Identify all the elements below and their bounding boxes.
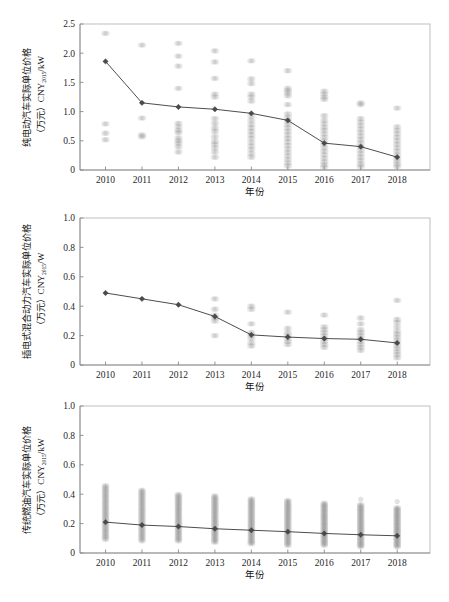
chart-svg-0: 00.51.01.52.02.5201020112012201320142015… xyxy=(0,0,449,200)
x-tick-label: 2017 xyxy=(351,370,370,380)
scatter-point xyxy=(396,105,401,110)
scatter-point xyxy=(287,163,292,168)
scatter-outlier-point xyxy=(358,497,363,502)
x-tick-label: 2018 xyxy=(388,370,407,380)
scatter-point xyxy=(141,115,146,120)
scatter-point xyxy=(214,116,219,121)
y-axis-title-line1: 纯电动汽车实际单位价格 xyxy=(21,48,32,147)
x-tick-label: 2011 xyxy=(133,175,152,185)
x-tick-label: 2016 xyxy=(315,370,334,380)
scatter-point xyxy=(214,76,219,81)
x-tick-label: 2014 xyxy=(242,370,261,380)
y-axis-title-line2: （万元）CNY2015/W xyxy=(36,252,47,330)
y-tick-label: 0 xyxy=(70,165,75,175)
chart-panel-phev: 00.20.40.60.81.0201020112012201320142015… xyxy=(0,196,449,396)
scatter-point xyxy=(177,63,182,68)
chart-svg-1: 00.20.40.60.81.0201020112012201320142015… xyxy=(0,196,449,396)
x-tick-label: 2014 xyxy=(242,175,261,185)
scatter-point xyxy=(323,543,328,548)
y-axis-title-line2: （万元）CNY2015/kW xyxy=(36,438,47,521)
y-tick-label: 1.0 xyxy=(63,401,75,411)
chart-panel-icev: 00.20.40.60.81.0201020112012201320142015… xyxy=(0,392,449,602)
y-tick-label: 0.2 xyxy=(63,331,75,341)
scatter-point xyxy=(360,102,365,107)
x-tick-label: 2015 xyxy=(278,175,297,185)
scatter-point xyxy=(177,86,182,91)
scatter-point xyxy=(287,93,292,98)
series-marker xyxy=(176,104,181,109)
scatter-point xyxy=(177,144,182,149)
y-tick-label: 0.6 xyxy=(63,460,75,470)
x-tick-label: 2012 xyxy=(169,175,188,185)
scatter-point xyxy=(250,321,255,326)
scatter-point xyxy=(360,545,365,550)
y-tick-label: 2.5 xyxy=(63,19,75,29)
scatter-point xyxy=(177,149,182,154)
scatter-point xyxy=(250,155,255,160)
scatter-point xyxy=(214,540,219,545)
y-tick-label: 1.0 xyxy=(63,213,75,223)
scatter-point xyxy=(105,137,110,142)
y-tick-label: 0.4 xyxy=(63,302,75,312)
x-tick-label: 2010 xyxy=(96,370,115,380)
scatter-point xyxy=(214,59,219,64)
scatter-point xyxy=(177,130,182,135)
scatter-point xyxy=(214,48,219,53)
x-tick-label: 2011 xyxy=(133,558,152,568)
scatter-point xyxy=(105,537,110,542)
scatter-point xyxy=(250,58,255,63)
scatter-point xyxy=(287,309,292,314)
scatter-point xyxy=(323,97,328,102)
x-tick-label: 2013 xyxy=(205,558,224,568)
scatter-point xyxy=(141,134,146,139)
scatter-point xyxy=(287,102,292,107)
y-axis-title-line1: 插电式混合动力汽车实际单位价格 xyxy=(21,224,32,359)
scatter-point xyxy=(250,343,255,348)
scatter-point xyxy=(250,542,255,547)
scatter-point xyxy=(105,31,110,36)
x-tick-label: 2017 xyxy=(351,558,370,568)
scatter-point xyxy=(323,113,328,118)
scatter-point xyxy=(214,155,219,160)
scatter-point xyxy=(287,342,292,347)
scatter-point xyxy=(396,355,401,360)
series-marker xyxy=(176,302,181,307)
scatter-point xyxy=(214,333,219,338)
x-tick-label: 2016 xyxy=(315,175,334,185)
scatter-point xyxy=(323,164,328,169)
series-marker xyxy=(212,107,217,112)
scatter-point xyxy=(141,42,146,47)
y-tick-label: 0.8 xyxy=(63,431,75,441)
x-tick-label: 2018 xyxy=(388,558,407,568)
scatter-point xyxy=(396,545,401,550)
y-axis-title-line2: （万元）CNY2015/kW xyxy=(36,55,47,138)
y-tick-label: 0.4 xyxy=(63,490,75,500)
scatter-outlier-point xyxy=(395,499,400,504)
series-marker xyxy=(139,296,144,301)
y-tick-label: 0.5 xyxy=(63,136,75,146)
y-tick-label: 2.0 xyxy=(63,49,75,59)
x-tick-label: 2010 xyxy=(96,175,115,185)
scatter-point xyxy=(360,348,365,353)
x-tick-label: 2018 xyxy=(388,175,407,185)
scatter-point xyxy=(214,134,219,139)
scatter-point xyxy=(360,315,365,320)
y-tick-label: 0.8 xyxy=(63,243,75,253)
scatter-point xyxy=(214,129,219,134)
x-tick-label: 2013 xyxy=(205,175,224,185)
scatter-point xyxy=(214,307,219,312)
scatter-point xyxy=(250,98,255,103)
x-tick-label: 2013 xyxy=(205,370,224,380)
x-tick-label: 2011 xyxy=(133,370,152,380)
x-tick-label: 2012 xyxy=(169,370,188,380)
scatter-point xyxy=(214,296,219,301)
scatter-point xyxy=(178,539,183,544)
scatter-point xyxy=(141,539,146,544)
x-axis-title: 年份 xyxy=(245,381,265,392)
scatter-point xyxy=(323,345,328,350)
y-tick-label: 0.2 xyxy=(63,519,75,529)
scatter-point xyxy=(214,94,219,99)
chart-svg-2: 00.20.40.60.81.0201020112012201320142015… xyxy=(0,392,449,602)
scatter-point xyxy=(360,321,365,326)
x-tick-label: 2010 xyxy=(96,558,115,568)
